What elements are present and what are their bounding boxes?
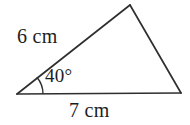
triangle-outline [17,5,181,94]
side-length-label-7cm: 7 cm [69,100,110,120]
angle-arc-40 [37,77,43,94]
angle-measure-label-40deg: 40° [45,66,72,85]
triangle-side-left [17,5,130,94]
triangle-base [17,93,181,94]
side-length-label-6cm: 6 cm [17,26,58,46]
triangle-figure: 6 cm 40° 7 cm [0,0,190,125]
triangle-side-right [130,5,181,93]
